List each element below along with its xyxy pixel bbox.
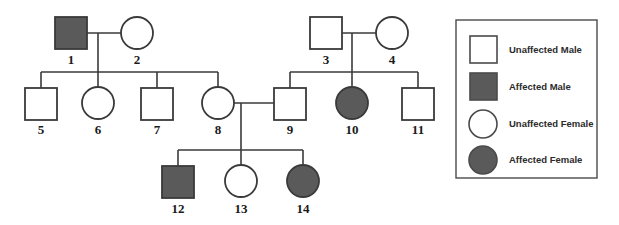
individual-8-label: 8 [215,122,222,137]
individual-11-square[interactable] [402,88,434,120]
individual-9-square[interactable] [274,88,306,120]
individual-11-label: 11 [412,122,424,137]
individual-14[interactable]: 14 [287,165,319,216]
individual-5-square[interactable] [25,88,57,120]
individual-6-circle[interactable] [82,87,114,119]
individual-11[interactable]: 11 [402,88,434,137]
individual-12-label: 12 [172,201,185,216]
individual-3[interactable]: 3 [310,17,342,67]
sibship-line-gen2-right [290,72,418,88]
sibship-line-gen2-left [41,72,218,88]
individual-8[interactable]: 8 [202,87,234,137]
legend-label-unaffected-female: Unaffected Female [509,118,593,129]
individual-2-circle[interactable] [121,17,153,49]
legend-swatch-unaffected-male-square [470,36,497,63]
individual-9-label: 9 [287,122,294,137]
individual-6-label: 6 [95,122,102,137]
pedigree-svg: 1 2 3 4 5 6 7 [0,0,619,225]
individual-13-circle[interactable] [225,165,257,197]
individual-7-square[interactable] [141,88,173,120]
legend-label-affected-female: Affected Female [509,154,582,165]
individual-10-label: 10 [346,122,359,137]
individual-14-circle[interactable] [287,165,319,197]
individual-12-square[interactable] [162,166,194,198]
legend: Unaffected Male Affected Male Unaffected… [456,20,597,178]
legend-swatch-unaffected-female-circle [469,110,497,138]
individual-2[interactable]: 2 [121,17,153,67]
individual-10[interactable]: 10 [336,87,368,137]
individual-7-label: 7 [154,122,161,137]
individual-13[interactable]: 13 [225,165,257,216]
individual-9[interactable]: 9 [274,88,306,137]
individual-12[interactable]: 12 [162,166,194,216]
individual-14-label: 14 [297,201,311,216]
individual-5-label: 5 [38,122,45,137]
individual-13-label: 13 [235,201,249,216]
individual-4[interactable]: 4 [376,17,408,67]
individual-3-label: 3 [323,52,330,67]
individual-6[interactable]: 6 [82,87,114,137]
individual-5[interactable]: 5 [25,88,57,137]
mating-line-1-2 [87,33,121,72]
individual-8-circle[interactable] [202,87,234,119]
individual-4-circle[interactable] [376,17,408,49]
mating-line-8-9 [233,103,274,150]
individual-10-circle[interactable] [336,87,368,119]
individual-7[interactable]: 7 [141,88,173,137]
individual-1[interactable]: 1 [55,17,87,67]
individual-4-label: 4 [389,52,396,67]
mating-line-3-4 [342,33,376,72]
individual-3-square[interactable] [310,17,342,49]
legend-label-unaffected-male: Unaffected Male [509,44,582,55]
individual-2-label: 2 [134,52,141,67]
individual-1-label: 1 [68,52,75,67]
individual-1-square[interactable] [55,17,87,49]
sibship-line-gen3 [178,150,303,166]
legend-swatch-affected-female-circle [469,146,497,174]
pedigree-chart: 1 2 3 4 5 6 7 [0,0,619,225]
legend-swatch-affected-male-square [470,73,497,100]
legend-label-affected-male: Affected Male [509,81,571,92]
